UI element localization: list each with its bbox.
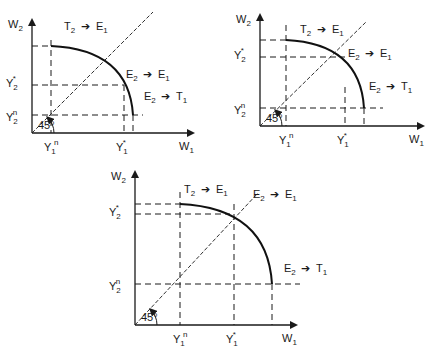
x-axis-label: W1 [409, 133, 424, 148]
region-t2-e1-from: T2 [300, 23, 312, 38]
y1-star-label: Y1* [226, 330, 238, 348]
region-e2-e1-to: E1 [285, 188, 297, 203]
arrow-icon: ➔ [270, 188, 279, 200]
region-e2-t1-from: E2 [369, 80, 381, 95]
y-axis-label: W2 [236, 13, 251, 28]
region-t2-e1-from: T2 [184, 183, 196, 198]
angle-label: 45° [38, 119, 55, 131]
region-e2-e1-from: E2 [126, 68, 138, 83]
panel-bottom: 45°W2W1Y2*Y2nY1nY1*T2➔E1E2➔E1E2➔T1 [109, 170, 328, 348]
y2-star-label: Y2* [234, 46, 246, 64]
region-t2-e1-to: E1 [332, 23, 344, 38]
frontier-curve [180, 204, 272, 284]
y2-n-label: Y2n [6, 108, 18, 126]
region-e2-t1-to: T1 [176, 90, 188, 105]
x-axis-label: W1 [282, 332, 297, 347]
region-e2-t1-from: E2 [284, 262, 296, 277]
region-e2-e1: E2➔E1 [253, 188, 297, 203]
arrow-icon: ➔ [386, 80, 395, 92]
y2-n-label: Y2n [109, 277, 121, 295]
diagonal-45-line [135, 193, 258, 325]
region-t2-e1: T2➔E1 [64, 20, 108, 35]
region-t2-e1-from: T2 [64, 20, 76, 35]
arrow-icon: ➔ [161, 90, 170, 102]
y-axis-label: W2 [111, 170, 126, 185]
y2-n-label: Y2n [234, 101, 246, 119]
region-e2-e1: E2➔E1 [348, 47, 392, 62]
region-e2-e1-from: E2 [348, 47, 360, 62]
region-e2-e1: E2➔E1 [126, 68, 170, 83]
region-e2-t1-from: E2 [144, 90, 156, 105]
panel-top-left: 45°W2W1Y2*Y2nY1nY1*T2➔E1E2➔E1E2➔T1 [6, 12, 194, 156]
arrow-icon: ➔ [143, 68, 152, 80]
region-e2-t1-to: T1 [316, 262, 328, 277]
panel-top-right: 45°W2W1Y2*Y2nY1nY1*T2➔E1E2➔E1E2➔T1 [234, 13, 424, 149]
y1-star-label: Y1* [116, 138, 128, 156]
region-e2-e1-to: E1 [158, 68, 170, 83]
arrow-icon: ➔ [301, 262, 310, 274]
region-t2-e1: T2➔E1 [300, 23, 344, 38]
region-e2-t1-to: T1 [401, 80, 413, 95]
y1-n-superscript: n [183, 330, 187, 339]
arrow-icon: ➔ [81, 20, 90, 32]
y2-star-label: Y2* [109, 203, 121, 221]
region-t2-e1-to: E1 [216, 183, 228, 198]
y1-n-superscript: n [54, 138, 58, 147]
arrow-icon: ➔ [365, 47, 374, 59]
arrow-icon: ➔ [317, 23, 326, 35]
region-e2-t1: E2➔T1 [144, 90, 188, 105]
angle-label: 45° [141, 311, 158, 323]
diagram-figure: 45°W2W1Y2*Y2nY1nY1*T2➔E1E2➔E1E2➔T145°W2W… [0, 0, 436, 352]
y1-n-superscript: n [289, 131, 293, 140]
region-e2-e1-to: E1 [380, 47, 392, 62]
y-axis-label: W2 [8, 18, 23, 33]
region-e2-t1: E2➔T1 [284, 262, 328, 277]
angle-label: 45° [266, 112, 283, 124]
arrow-icon: ➔ [201, 183, 210, 195]
region-t2-e1: T2➔E1 [184, 183, 228, 198]
region-e2-e1-from: E2 [253, 188, 265, 203]
frontier-curve [51, 46, 133, 115]
x-axis-label: W1 [179, 140, 194, 155]
region-t2-e1-to: E1 [96, 20, 108, 35]
y2-star-label: Y2* [6, 74, 18, 92]
y1-star-label: Y1* [337, 131, 349, 149]
region-e2-t1: E2➔T1 [369, 80, 413, 95]
